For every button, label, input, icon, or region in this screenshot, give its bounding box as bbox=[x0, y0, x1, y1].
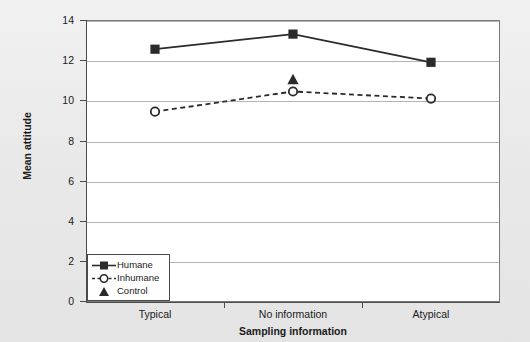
x-tick-label-typical: Typical bbox=[85, 309, 225, 320]
y-tick-label-4: 4 bbox=[0, 216, 74, 227]
legend-label-humane: Humane bbox=[117, 260, 153, 270]
series-humane bbox=[150, 30, 435, 67]
circle-dashed-line-key bbox=[91, 271, 117, 284]
square-solid-line-key bbox=[91, 258, 117, 271]
series-inhumane bbox=[151, 87, 435, 116]
x-tick-1 bbox=[224, 302, 225, 308]
series-control bbox=[287, 74, 298, 84]
y-tick-label-12: 12 bbox=[0, 55, 74, 66]
legend-item-inhumane: Inhumane bbox=[91, 271, 165, 284]
legend-label-control: Control bbox=[117, 286, 148, 296]
y-tick-label-0: 0 bbox=[0, 296, 74, 307]
chart-figure: Mean attitude 14 12 10 8 6 4 2 0 Typical… bbox=[0, 0, 530, 342]
x-tick-label-atypical: Atypical bbox=[361, 309, 501, 320]
legend: Humane Inhumane Control bbox=[87, 254, 170, 301]
legend-label-inhumane: Inhumane bbox=[117, 273, 159, 283]
y-tick-label-8: 8 bbox=[0, 136, 74, 147]
x-axis-line bbox=[86, 302, 500, 303]
legend-item-control: Control bbox=[91, 284, 165, 297]
x-axis-title: Sampling information bbox=[86, 325, 500, 337]
x-tick-label-no-information: No information bbox=[223, 309, 363, 320]
x-tick-2 bbox=[362, 302, 363, 308]
legend-item-humane: Humane bbox=[91, 258, 165, 271]
y-tick-label-10: 10 bbox=[0, 95, 74, 106]
y-tick-label-6: 6 bbox=[0, 176, 74, 187]
y-tick-label-2: 2 bbox=[0, 256, 74, 267]
y-tick-label-14: 14 bbox=[0, 15, 74, 26]
triangle-key bbox=[91, 284, 117, 297]
